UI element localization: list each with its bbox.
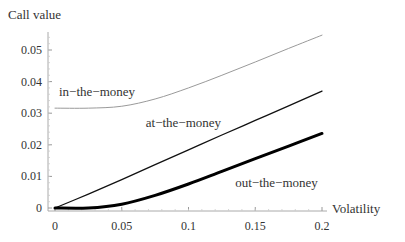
y-tick-label: 0.04	[21, 75, 42, 89]
call-value-chart: Call value Volatility 00.010.020.030.040…	[0, 0, 405, 242]
series-out-the-money	[55, 133, 322, 208]
x-tick-label: 0.15	[245, 219, 266, 233]
y-tick-label: 0.03	[21, 106, 42, 120]
curve-label: at−the−money	[146, 115, 222, 130]
y-tick-label: 0.01	[21, 169, 42, 183]
curve-label: in−the−money	[59, 84, 136, 99]
curve-labels: in−the−moneyat−the−moneyout−the−money	[59, 84, 318, 190]
x-tick-label: 0	[52, 219, 58, 233]
x-tick-label: 0.2	[315, 219, 330, 233]
curve-label: out−the−money	[235, 175, 318, 190]
y-axis-label: Call value	[8, 7, 61, 22]
y-tick-label: 0	[36, 201, 42, 215]
x-tick-label: 0.1	[181, 219, 196, 233]
y-tick-label: 0.05	[21, 43, 42, 57]
y-tick-label: 0.02	[21, 138, 42, 152]
x-tick-label: 0.05	[111, 219, 132, 233]
chart-svg: Call value Volatility 00.010.020.030.040…	[0, 0, 405, 242]
x-axis-label: Volatility	[332, 201, 381, 216]
